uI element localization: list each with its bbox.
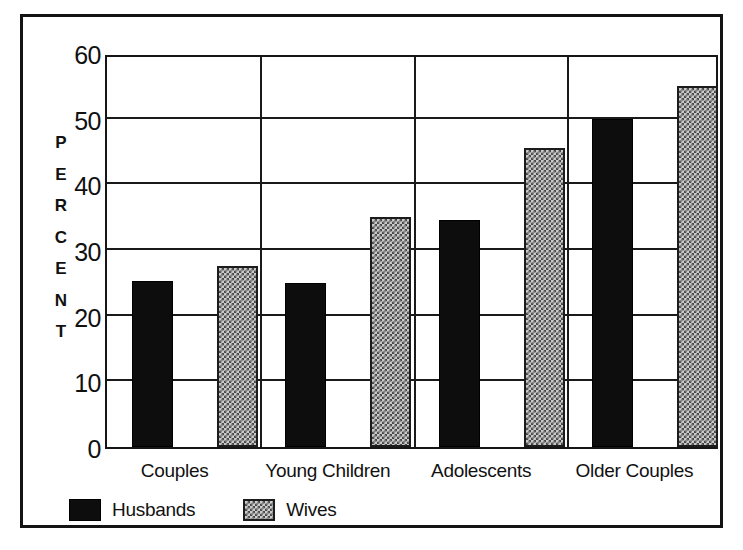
plot-inner bbox=[107, 57, 716, 447]
bar-wives-couples bbox=[217, 266, 258, 447]
chart-legend: HusbandsWives bbox=[69, 495, 336, 525]
legend-entry-wives[interactable]: Wives bbox=[243, 499, 336, 521]
chart-figure: PERCENT 0102030405060 CouplesYoung Child… bbox=[0, 0, 743, 550]
bar-group bbox=[260, 57, 413, 447]
bar-husbands-couples bbox=[132, 281, 173, 447]
checkered-gray-swatch bbox=[243, 499, 275, 521]
legend-entry-husbands[interactable]: Husbands bbox=[69, 499, 195, 521]
x-axis-category-labels: CouplesYoung ChildrenAdolescentsOlder Co… bbox=[105, 460, 718, 490]
legend-label-wives: Wives bbox=[286, 499, 336, 521]
figure-border: PERCENT 0102030405060 CouplesYoung Child… bbox=[20, 14, 723, 528]
bar-wives-young-children bbox=[370, 217, 411, 447]
bar-group bbox=[107, 57, 260, 447]
y-tick-label-10: 10 bbox=[74, 369, 101, 398]
solid-black-swatch bbox=[69, 499, 101, 521]
bar-wives-adolescents bbox=[524, 148, 565, 447]
category-label-adolescents: Adolescents bbox=[431, 460, 531, 482]
y-tick-label-60: 60 bbox=[74, 41, 101, 70]
bar-group bbox=[567, 57, 720, 447]
plot-area bbox=[105, 55, 718, 449]
bar-group bbox=[414, 57, 567, 447]
category-label-young-children: Young Children bbox=[265, 460, 390, 482]
bar-husbands-young-children bbox=[285, 283, 326, 447]
bar-husbands-older-couples bbox=[592, 119, 633, 447]
y-tick-label-50: 50 bbox=[74, 106, 101, 135]
y-axis-tick-labels: 0102030405060 bbox=[65, 55, 101, 449]
bar-husbands-adolescents bbox=[439, 220, 480, 447]
legend-label-husbands: Husbands bbox=[112, 499, 195, 521]
bar-wives-older-couples bbox=[677, 86, 718, 447]
y-tick-label-30: 30 bbox=[74, 238, 101, 267]
y-tick-label-40: 40 bbox=[74, 172, 101, 201]
category-label-couples: Couples bbox=[141, 460, 209, 482]
category-label-older-couples: Older Couples bbox=[576, 460, 694, 482]
y-tick-label-20: 20 bbox=[74, 303, 101, 332]
y-tick-label-0: 0 bbox=[88, 435, 101, 464]
